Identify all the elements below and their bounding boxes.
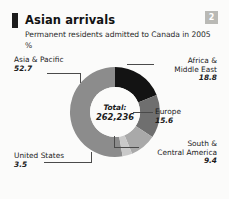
slice-label-africa-middle-east-value: 18.8 [155,74,217,83]
chart-plot-area: Total: 262,236 Asia & Pacific 52.7 Afric… [0,52,229,199]
slice-label-africa-middle-east: Africa & Middle East 18.8 [155,57,217,83]
figure-number-badge: 2 [205,11,218,24]
leader-line-south-central-vert [114,136,115,148]
slice-label-europe-value: 15.6 [155,117,217,126]
chart-figure: Asian arrivals Permanent residents admit… [0,0,229,199]
slice-label-south-central-america-value: 9.4 [141,157,217,166]
slice-label-europe: Europe 15.6 [155,108,217,125]
leader-line-africa [127,64,154,65]
chart-header: Asian arrivals Permanent residents admit… [0,0,229,52]
title-accent-bar [12,13,18,28]
leader-line-europe [133,112,153,113]
leader-line-asia-pacific-vert [80,73,81,83]
page-title: Asian arrivals [25,13,115,27]
leader-line-united-states-vert [91,152,92,163]
slice-label-asia-pacific: Asia & Pacific 52.7 [14,56,63,73]
slice-label-united-states-value: 3.5 [14,161,64,170]
slice-label-united-states: United States 3.5 [14,152,64,169]
slice-label-south-central-america: South & Central America 9.4 [141,140,217,166]
chart-subtitle: Permanent residents admitted to Canada i… [25,30,211,39]
slice-label-asia-pacific-value: 52.7 [14,65,63,74]
leader-line-south-central [114,147,139,148]
chart-unit-label: % [25,41,32,50]
